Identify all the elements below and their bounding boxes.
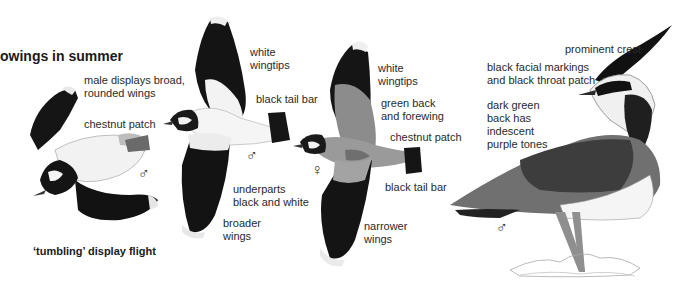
label-broader-wings: broader wings [223,217,261,243]
male-symbol-icon: ♂ [138,166,150,182]
plate-caption: ‘tumbling’ display flight [33,245,156,257]
label-facial-markings: black facial markings and black throat p… [487,61,595,87]
label-prominent-crest: prominent crest [565,43,641,56]
label-dark-green-back: dark green back has indescent purple ton… [487,99,548,151]
male-symbol-icon: ♂ [496,220,508,236]
label-chestnut-patch-1: chestnut patch [84,118,156,131]
plate-title: owings in summer [0,48,123,64]
label-narrower-wings: narrower wings [364,220,407,246]
tumbling-male-illustration [30,86,158,220]
label-male-broad-wings: male displays broad, rounded wings [84,74,185,100]
label-black-tail-bar-male: black tail bar [256,93,318,106]
label-white-wingtips-female: white wingtips [378,62,418,88]
label-chestnut-patch-2: chestnut patch [390,131,462,144]
label-green-back: green back and forewing [381,97,444,123]
female-symbol-icon: ♀ [311,162,323,178]
label-white-wingtips-male: white wingtips [250,46,290,72]
label-black-tail-bar-female: black tail bar [385,181,447,194]
label-underparts: underparts black and white [233,183,309,209]
male-symbol-icon: ♂ [246,148,258,164]
